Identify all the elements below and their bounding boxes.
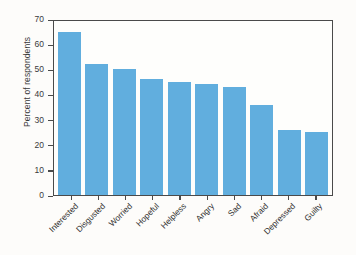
x-tick-mark xyxy=(288,196,289,200)
bar xyxy=(113,69,136,195)
x-tick-mark xyxy=(179,196,180,200)
bar xyxy=(58,32,81,195)
bar xyxy=(305,132,328,195)
bar xyxy=(278,130,301,195)
x-tick-mark xyxy=(98,196,99,200)
bar xyxy=(168,82,191,195)
y-tick-label: 70 xyxy=(16,14,44,24)
y-tick-label: 40 xyxy=(16,89,44,99)
y-tick-label: 60 xyxy=(16,39,44,49)
y-tick-label: 50 xyxy=(16,64,44,74)
x-tick-mark xyxy=(234,196,235,200)
bar xyxy=(85,64,108,195)
bar xyxy=(140,79,163,195)
y-tick-label: 10 xyxy=(16,165,44,175)
bar xyxy=(223,87,246,195)
x-tick-label: Interested xyxy=(29,201,80,252)
bar-series xyxy=(54,21,332,195)
x-tick-mark xyxy=(71,196,72,200)
x-tick-mark xyxy=(152,196,153,200)
x-tick-mark xyxy=(261,196,262,200)
x-tick-mark xyxy=(125,196,126,200)
bar xyxy=(195,84,218,195)
x-tick-mark xyxy=(207,196,208,200)
plot-area xyxy=(53,20,333,196)
y-tick-label: 20 xyxy=(16,140,44,150)
y-tick-label: 30 xyxy=(16,115,44,125)
bar xyxy=(250,105,273,196)
x-tick-mark xyxy=(315,196,316,200)
bar-chart-figure: Percent of respondents 010203040506070 I… xyxy=(0,0,356,255)
y-tick-label: 0 xyxy=(16,190,44,200)
